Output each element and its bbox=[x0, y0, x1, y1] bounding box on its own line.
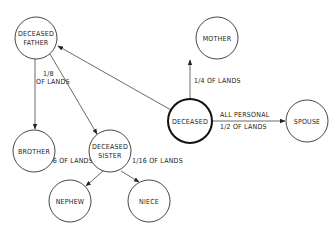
node-deceased-sister: DECEASED SISTER bbox=[89, 130, 131, 172]
node-label: NEPHEW bbox=[56, 198, 85, 206]
edge-label-niece: 1/16 OF LANDS bbox=[132, 157, 183, 165]
node-label: DECEASED bbox=[172, 118, 208, 126]
edge-label-father-brother-line2: OF LANDS bbox=[36, 78, 70, 86]
edge-label-spouse-line1: ALL PERSONAL bbox=[220, 111, 270, 119]
node-deceased: DECEASED bbox=[168, 99, 212, 143]
node-label-line2: FATHER bbox=[24, 39, 49, 47]
node-nephew: NEPHEW bbox=[49, 180, 91, 222]
edge-sister-to-nephew bbox=[86, 171, 103, 186]
edge-father-to-sister bbox=[50, 54, 97, 134]
edge-label-father-brother-line1: 1/8 bbox=[43, 70, 54, 78]
node-niece: NIECE bbox=[128, 180, 170, 222]
node-label: BROTHER bbox=[18, 148, 50, 156]
node-spouse: SPOUSE bbox=[286, 100, 328, 142]
node-label-line1: DECEASED bbox=[18, 30, 54, 38]
edge-deceased-to-father bbox=[58, 46, 171, 110]
node-mother: MOTHER bbox=[196, 17, 238, 59]
node-label-line2: SISTER bbox=[98, 152, 122, 160]
edge-label-mother: 1/4 OF LANDS bbox=[194, 77, 241, 85]
edge-label-spouse-line2: 1/2 OF LANDS bbox=[220, 123, 267, 131]
node-deceased-father: DECEASED FATHER bbox=[15, 17, 57, 59]
node-label-line1: DECEASED bbox=[92, 143, 128, 151]
inheritance-diagram: 1/8 OF LANDS 1/4 OF LANDS ALL PERSONAL 1… bbox=[0, 0, 336, 236]
edge-sister-to-niece bbox=[121, 171, 139, 182]
node-label: SPOUSE bbox=[294, 118, 321, 126]
node-brother: BROTHER bbox=[13, 130, 55, 172]
node-label: NIECE bbox=[139, 198, 159, 206]
node-label: MOTHER bbox=[203, 35, 232, 43]
